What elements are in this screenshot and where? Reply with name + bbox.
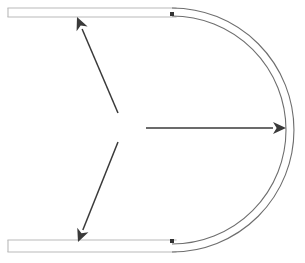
upper-outflow-arrow-shaft [82, 29, 118, 113]
lower-outflow-arrow-shaft [83, 142, 118, 230]
bend-inner-arc [172, 16, 286, 244]
diagram-svg [0, 0, 305, 263]
horizontal-flow-arrow-head [273, 122, 286, 134]
top-junction [170, 12, 174, 16]
diagram-canvas [0, 0, 305, 263]
horizontal-flow-arrow [146, 122, 286, 134]
top-straight-channel [8, 8, 176, 17]
bottom-junction [170, 239, 174, 243]
lower-outflow-arrow [77, 142, 118, 242]
upper-outflow-arrow [77, 17, 118, 113]
bottom-straight-channel [8, 240, 176, 252]
